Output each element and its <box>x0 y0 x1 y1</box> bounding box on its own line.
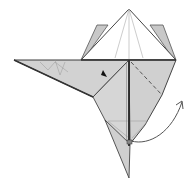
hinge-marker <box>127 140 132 144</box>
right-body <box>129 60 176 144</box>
origami-figure <box>0 0 191 191</box>
origami-diagram <box>0 0 191 191</box>
